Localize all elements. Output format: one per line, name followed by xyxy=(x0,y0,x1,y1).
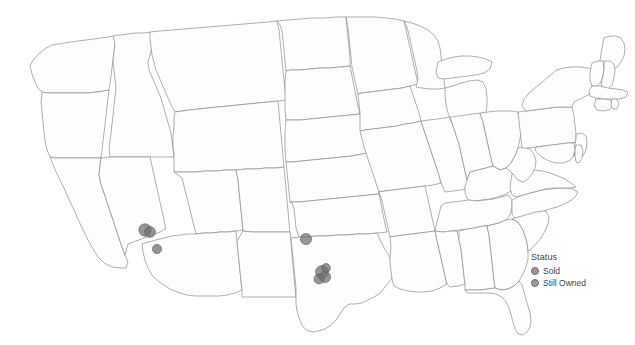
legend-swatch-sold xyxy=(531,267,539,275)
state-rhode-island[interactable] xyxy=(611,99,619,109)
marker-houston-metro-b[interactable] xyxy=(314,274,324,284)
state-oregon[interactable] xyxy=(41,90,109,158)
state-north-dakota[interactable] xyxy=(277,17,350,71)
legend-item-sold[interactable]: Sold xyxy=(531,265,631,276)
state-montana[interactable] xyxy=(150,21,286,112)
legend-item-still-owned[interactable]: Still Owned xyxy=(531,277,631,288)
legend-label-still-owned: Still Owned xyxy=(543,278,586,288)
state-texas[interactable] xyxy=(291,233,396,332)
state-colorado[interactable] xyxy=(236,167,290,232)
map-legend: Status Sold Still Owned xyxy=(531,252,631,288)
state-utah[interactable] xyxy=(174,170,243,234)
marker-dallas-sold[interactable] xyxy=(300,233,311,244)
state-new-mexico[interactable] xyxy=(237,231,296,297)
marker-phoenix-still-owned[interactable] xyxy=(145,227,156,238)
state-massachusetts[interactable] xyxy=(589,86,628,99)
state-washington[interactable] xyxy=(30,36,116,93)
state-pennsylvania[interactable] xyxy=(518,107,576,148)
state-arkansas[interactable] xyxy=(379,186,435,237)
legend-label-sold: Sold xyxy=(543,266,560,276)
marker-houston-metro-c[interactable] xyxy=(322,264,331,273)
legend-title: Status xyxy=(531,252,631,262)
figure-caption xyxy=(4,337,404,345)
us-map-figure: Status Sold Still Owned xyxy=(0,0,635,345)
state-south-dakota[interactable] xyxy=(285,66,360,120)
state-arizona[interactable] xyxy=(142,231,242,296)
marker-tucson-sold[interactable] xyxy=(152,244,161,253)
us-state-map[interactable] xyxy=(0,0,635,345)
state-connecticut[interactable] xyxy=(594,99,612,111)
state-wyoming[interactable] xyxy=(173,101,284,172)
state-delaware[interactable] xyxy=(575,145,583,163)
state-michigan-upper[interactable] xyxy=(436,56,492,79)
legend-swatch-still-owned xyxy=(531,279,539,287)
